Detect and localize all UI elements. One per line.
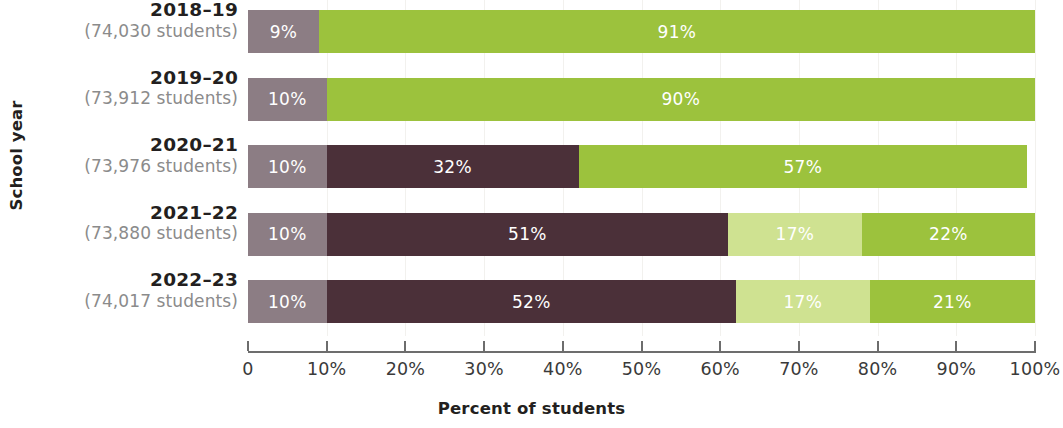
x-axis-tick (877, 341, 879, 351)
bar-segment: 9% (248, 10, 319, 53)
bar-segment: 17% (728, 213, 862, 256)
x-axis-tick-label: 70% (779, 359, 819, 379)
x-axis-tick (641, 341, 643, 351)
bar-segment-label: 17% (776, 224, 815, 244)
category-axis-labels: 2018–19(74,030 students)2019–20(73,912 s… (0, 0, 238, 336)
bar-segment: 10% (248, 280, 327, 323)
category-label: 2022–23(74,017 students) (0, 269, 238, 311)
bar-segment: 57% (579, 145, 1028, 188)
bar-segment: 22% (862, 213, 1035, 256)
x-axis-tick-label: 60% (700, 359, 740, 379)
x-axis-tick (1034, 341, 1036, 351)
x-axis-tick (404, 341, 406, 351)
bar-segment-label: 9% (270, 22, 298, 42)
bar-segment: 21% (870, 280, 1035, 323)
bar-row: 10%52%17%21% (248, 280, 1035, 323)
stacked-bar-chart: School year 2018–19(74,030 students)2019… (0, 0, 1063, 428)
bar-segment: 32% (327, 145, 579, 188)
category-label: 2019–20(73,912 students) (0, 67, 238, 109)
category-label: 2018–19(74,030 students) (0, 0, 238, 41)
x-axis-tick-label: 80% (858, 359, 898, 379)
bar-segment-label: 17% (783, 292, 822, 312)
category-year: 2022–23 (0, 269, 238, 291)
x-axis-tick-label: 30% (464, 359, 504, 379)
bar-segment-label: 90% (661, 89, 700, 109)
x-axis-line (248, 351, 1036, 353)
bar-segment: 51% (327, 213, 728, 256)
bar-segment-label: 21% (933, 292, 972, 312)
bar-segment-label: 52% (512, 292, 551, 312)
bar-segment: 52% (327, 280, 736, 323)
x-axis-tick-label: 50% (622, 359, 662, 379)
bar-segment-label: 22% (929, 224, 968, 244)
x-axis-tick (326, 341, 328, 351)
bar-row: 9%91% (248, 10, 1035, 53)
bar-segment: 91% (319, 10, 1035, 53)
x-axis-tick-label: 10% (307, 359, 347, 379)
bar-segment-label: 57% (783, 157, 822, 177)
x-axis-tick-label: 100% (1010, 359, 1061, 379)
x-axis-tick (483, 341, 485, 351)
x-axis-tick (955, 341, 957, 351)
bar-segment-label: 10% (268, 89, 307, 109)
x-axis-tick (798, 341, 800, 351)
bar-segment: 10% (248, 78, 327, 121)
gridline (1035, 0, 1036, 336)
x-axis-tick (719, 341, 721, 351)
category-year: 2020–21 (0, 134, 238, 156)
category-student-count: (74,017 students) (0, 291, 238, 311)
bar-segment: 10% (248, 213, 327, 256)
category-student-count: (73,976 students) (0, 156, 238, 176)
bar-row: 10%90% (248, 78, 1035, 121)
bar-segment-label: 10% (268, 157, 307, 177)
x-axis-tick-label: 90% (937, 359, 977, 379)
bar-segment-label: 91% (658, 22, 697, 42)
bar-row: 10%51%17%22% (248, 213, 1035, 256)
x-axis-tick (247, 341, 249, 351)
bar-segment-label: 32% (433, 157, 472, 177)
bar-segment: 17% (736, 280, 870, 323)
x-axis-tick-label: 40% (543, 359, 583, 379)
category-year: 2018–19 (0, 0, 238, 21)
category-student-count: (73,912 students) (0, 88, 238, 108)
bar-row: 10%32%57% (248, 145, 1035, 188)
category-student-count: (74,030 students) (0, 21, 238, 41)
bar-segment: 10% (248, 145, 327, 188)
x-axis-title: Percent of students (0, 399, 1063, 418)
category-label: 2021–22(73,880 students) (0, 202, 238, 244)
x-axis-tick-label: 0 (242, 359, 253, 379)
bar-segment: 90% (327, 78, 1035, 121)
category-year: 2021–22 (0, 202, 238, 224)
category-label: 2020–21(73,976 students) (0, 134, 238, 176)
x-axis-tick (562, 341, 564, 351)
plot-area: 9%91%10%90%10%32%57%10%51%17%22%10%52%17… (248, 0, 1035, 336)
bar-segment-label: 10% (268, 292, 307, 312)
x-axis-tick-label: 20% (386, 359, 426, 379)
category-student-count: (73,880 students) (0, 223, 238, 243)
bar-segment-label: 51% (508, 224, 547, 244)
category-year: 2019–20 (0, 67, 238, 89)
bar-segment-label: 10% (268, 224, 307, 244)
